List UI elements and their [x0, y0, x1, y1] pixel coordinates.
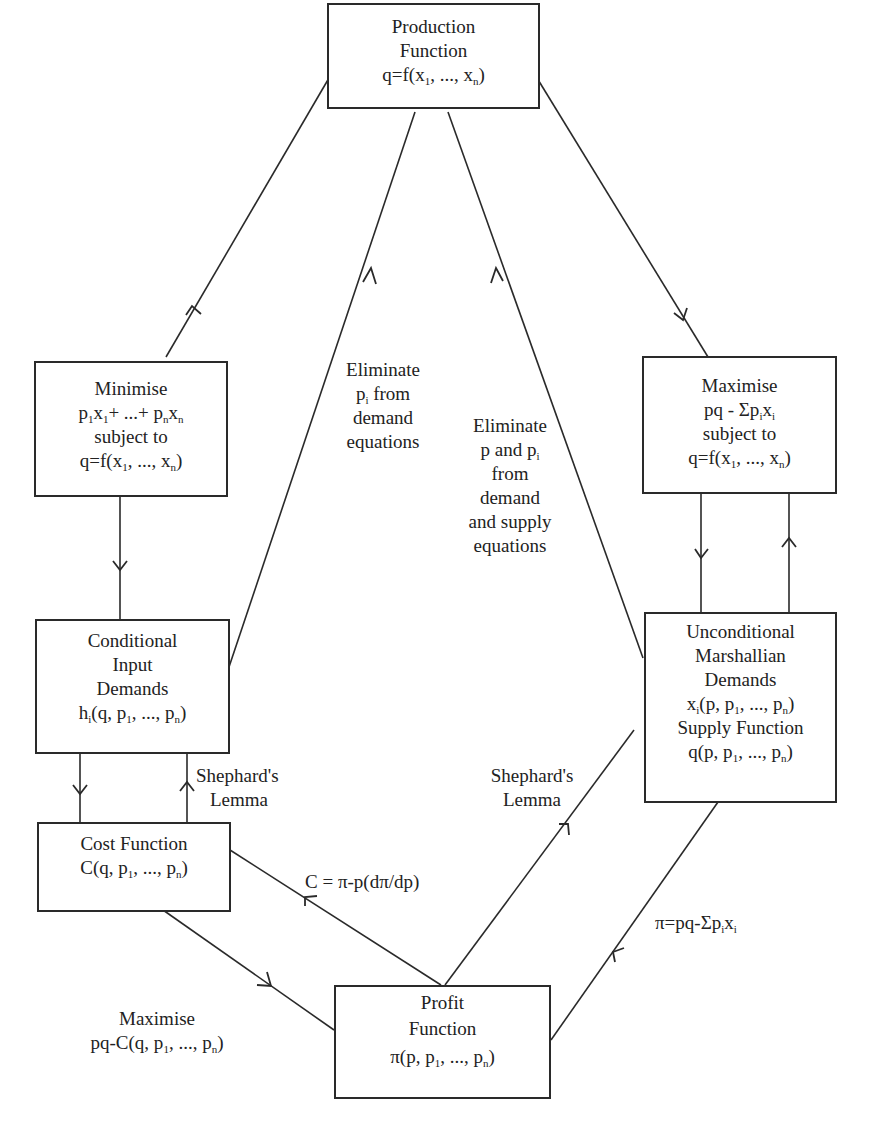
node-formula: C(q, p1, ..., pn) [39, 856, 229, 880]
label-eliminate-p-and-pi: Eliminate p and pi from demand and suppl… [458, 414, 562, 558]
label-line: Shephard's [196, 764, 286, 788]
node-formula: q=f(x1, ..., xn) [644, 446, 835, 470]
node-title: Profit [336, 991, 549, 1015]
label-line: Lemma [482, 788, 582, 812]
node-title: Marshallian [646, 644, 835, 668]
label-shephards-lemma-right: Shephard's Lemma [482, 764, 582, 812]
node-title: Function [336, 1017, 549, 1041]
node-formula: p1x1+ ...+ pnxn [36, 401, 226, 425]
node-title: Cost Function [39, 832, 229, 856]
label-line: demand [458, 486, 562, 510]
node-cost-function: Cost Function C(q, p1, ..., pn) [37, 822, 231, 912]
edge-production-minimise [166, 78, 329, 357]
node-title: Input [37, 653, 228, 677]
node-conditional-input-demands: Conditional Input Demands hi(q, p1, ...,… [35, 619, 230, 754]
arrowhead-up-icon [491, 268, 503, 283]
node-formula: q=f(x1, ..., xn) [36, 449, 226, 473]
edge-unconditional-production [448, 112, 643, 658]
label-line: from [458, 462, 562, 486]
label-line: p and pi [458, 438, 562, 462]
node-title: Demands [646, 668, 835, 692]
node-formula: pq - Σpixi [644, 398, 835, 422]
node-formula: q(p, p1, ..., pn) [646, 740, 835, 764]
node-title: Supply Function [646, 716, 835, 740]
label-line: Eliminate [458, 414, 562, 438]
label-line: Eliminate [338, 358, 428, 382]
node-title: Production [329, 15, 538, 39]
label-cost-from-profit: C = π-p(dπ/dp) [305, 870, 419, 894]
node-title: Function [329, 39, 538, 63]
node-unconditional-marshallian-demands: Unconditional Marshallian Demands xi(p, … [644, 612, 837, 803]
node-profit-function: Profit Function π(p, p1, ..., pn) [334, 985, 551, 1099]
node-formula: hi(q, p1, ..., pn) [37, 701, 228, 725]
label-profit-identity: π=pq-Σpixi [655, 911, 737, 935]
edge-production-maximise [537, 78, 708, 357]
label-line: Shephard's [482, 764, 582, 788]
label-line: equations [458, 534, 562, 558]
node-formula: q=f(x1, ..., xn) [329, 63, 538, 87]
label-line: demand [338, 406, 428, 430]
node-title: Maximise [644, 374, 835, 398]
node-formula: xi(p, p1, ..., pn) [646, 692, 835, 716]
diagram-edges [0, 0, 869, 1127]
label-line: Lemma [196, 788, 286, 812]
node-minimise: Minimise p1x1+ ...+ pnxn subject to q=f(… [34, 361, 228, 497]
node-title: Conditional [37, 629, 228, 653]
node-title: Demands [37, 677, 228, 701]
node-text: subject to [644, 422, 835, 446]
label-eliminate-pi: Eliminate pi from demand equations [338, 358, 428, 454]
node-maximise: Maximise pq - Σpixi subject to q=f(x1, .… [642, 356, 837, 494]
label-line: Maximise [72, 1007, 242, 1031]
label-line: equations [338, 430, 428, 454]
node-production-function: Production Function q=f(x1, ..., xn) [327, 3, 540, 109]
label-shephards-lemma-left: Shephard's Lemma [196, 764, 286, 812]
node-title: Minimise [36, 377, 226, 401]
label-maximise-cost: Maximise pq-C(q, p1, ..., pn) [72, 1007, 242, 1055]
arrowhead-up-icon [363, 268, 376, 284]
label-line: and supply [458, 510, 562, 534]
node-title: Unconditional [646, 620, 835, 644]
node-formula: π(p, p1, ..., pn) [336, 1045, 549, 1069]
label-line: pq-C(q, p1, ..., pn) [72, 1031, 242, 1055]
node-text: subject to [36, 425, 226, 449]
label-line: pi from [338, 382, 428, 406]
